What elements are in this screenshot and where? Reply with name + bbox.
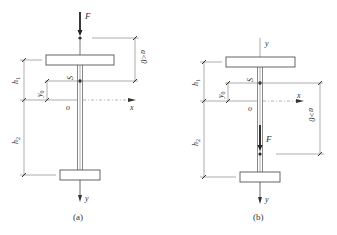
top-flange-b: [226, 57, 295, 67]
svg-text:h1: h1: [11, 77, 21, 84]
shear-center-label-b: S: [246, 78, 255, 82]
caption-b: (b): [253, 212, 264, 222]
bottom-flange-b: [240, 172, 280, 182]
panel-a: F y S x: [11, 11, 148, 222]
shear-center-a: S: [66, 76, 82, 83]
svg-text:h2: h2: [11, 137, 21, 144]
svg-text:h2: h2: [191, 139, 201, 146]
shear-center-label-a: S: [66, 76, 75, 80]
x-axis-label-b: x: [296, 91, 301, 100]
x-axis-b: x o: [200, 91, 304, 113]
y-axis-label-a: y: [84, 194, 89, 203]
force-arrow-b: F: [258, 125, 273, 156]
top-flange-a: [46, 55, 114, 65]
dim-y0-a: y0: [35, 79, 49, 102]
x-axis-label-a: x: [129, 103, 134, 112]
a-greater-than-zero-label: a>0: [307, 108, 316, 121]
shear-center-b: S: [246, 78, 262, 85]
i-beam-section-diagram: F y S x: [0, 0, 337, 235]
force-label-b: F: [265, 134, 272, 144]
dim-h2-a: h2: [11, 100, 26, 177]
y-axis-b: y: [258, 182, 269, 204]
a-less-than-zero-label: a<0: [139, 50, 148, 63]
y-axis-label-b: y: [264, 195, 269, 204]
origin-label-b: o: [248, 104, 252, 113]
panel-b: y y S x o: [191, 38, 324, 222]
bottom-flange-a: [60, 170, 100, 180]
force-arrow-a: F: [78, 11, 92, 40]
force-label-a: F: [84, 11, 91, 21]
dim-y0-b: y0: [216, 81, 230, 103]
y-axis-a: y: [78, 180, 89, 203]
caption-a: (a): [73, 212, 83, 222]
dim-h2-b: h2: [191, 101, 206, 179]
svg-text:y0: y0: [216, 91, 226, 99]
x-axis-a: x o: [20, 98, 136, 112]
dim-h1-b: h1: [191, 60, 206, 103]
dim-h1-a: h1: [11, 58, 26, 102]
svg-text:h1: h1: [191, 79, 201, 86]
y-axis-top-label-b: y: [264, 39, 269, 48]
svg-text:y0: y0: [35, 90, 45, 98]
origin-label-a: o: [66, 103, 70, 112]
